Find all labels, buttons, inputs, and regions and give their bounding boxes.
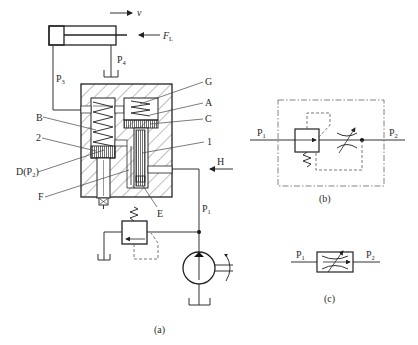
inlet-label: P1 [257, 127, 266, 139]
callout-e: E [157, 208, 163, 219]
relief-valve-box [122, 221, 147, 244]
diagram-canvas: v F L P4 P3 [0, 0, 418, 345]
outlet-label: P2 [389, 127, 398, 139]
callout-2: 2 [36, 132, 41, 143]
figure-c: P1 P2 (c) [291, 249, 380, 305]
figure-b: P1 P2 (b) [250, 100, 405, 205]
reducing-valve-symbol [295, 129, 319, 152]
rotation-arrow-icon [226, 255, 230, 281]
relief-spring-icon [130, 207, 138, 221]
caption-a: (a) [154, 324, 165, 336]
p3-line: P3 [53, 45, 82, 110]
velocity-label: v [137, 7, 142, 18]
callout-a: A [205, 97, 213, 108]
callout-f: F [38, 191, 44, 202]
callout-h: H [217, 156, 224, 167]
load-force-indicator: F L [139, 30, 173, 42]
reducing-spool-land [91, 146, 115, 158]
callout-d: D(P2) [16, 166, 39, 178]
reducing-spring-icon [303, 152, 311, 167]
caption-c: (c) [324, 293, 335, 305]
port-p1-label: P1 [202, 203, 211, 215]
port-p3-label: P3 [56, 73, 65, 85]
relief-pilot-line [134, 233, 158, 259]
throttle-lower-icon [337, 145, 357, 149]
outlet-label: P2 [366, 249, 375, 261]
hydraulic-pump [183, 252, 233, 305]
inlet-channel-h [148, 166, 172, 173]
figure-a: v F L P4 P3 [16, 7, 233, 336]
caption-b: (b) [319, 193, 331, 205]
component-enclosure [278, 100, 384, 186]
hydraulic-cylinder [49, 26, 127, 45]
callout-b: B [36, 112, 43, 123]
relief-valve [98, 207, 158, 260]
valve-body [81, 84, 172, 209]
port-p4-label: P4 [117, 54, 127, 66]
callout-1: 1 [207, 136, 212, 147]
pilot-line-lower [316, 140, 362, 170]
throttle-spool-1 [136, 130, 145, 182]
velocity-indicator: v [110, 7, 142, 18]
p4-return-line: P4 [104, 45, 127, 77]
load-label-sub: L [169, 35, 173, 42]
callout-g: G [205, 76, 212, 87]
cylinder-piston [49, 26, 64, 45]
throttle-upper-icon [337, 133, 357, 136]
h-indicator: H [210, 156, 233, 169]
inlet-label: P1 [296, 249, 305, 261]
callout-c: C [205, 113, 212, 124]
